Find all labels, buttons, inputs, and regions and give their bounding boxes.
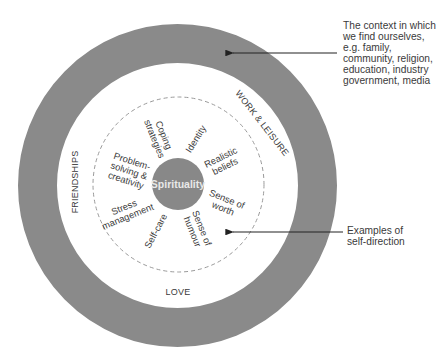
ring-label-love: LOVE (160, 287, 196, 297)
center-label-spirituality: Spirituality (150, 178, 206, 190)
ring-label-friendships: FRIENDSHIPS (70, 147, 80, 217)
annotation-self-direction: Examples of self-direction (347, 225, 437, 247)
annotation-context: The context in which we find ourselves, … (343, 20, 441, 86)
